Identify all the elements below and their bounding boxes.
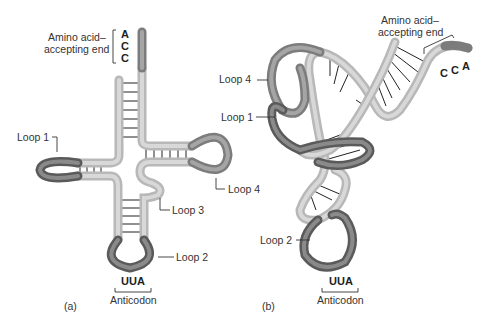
anticodon-stem-bonds: [122, 200, 140, 232]
acceptor-stem-bonds: [123, 83, 138, 137]
amino-acid-label-a-1: Amino acid–: [48, 31, 106, 43]
base-b-2: C: [451, 64, 459, 76]
amino-acid-label-a-2: accepting end: [44, 43, 110, 55]
trna-diagram: Amino acid– accepting end A C C Loop 1 L…: [0, 0, 483, 328]
panel-a-id: (a): [64, 300, 77, 312]
loop-3-label-a: Loop 3: [172, 204, 204, 216]
panel-b-id: (b): [262, 300, 275, 312]
anticodon-seq-a: UUA: [121, 275, 145, 287]
loop-1-label-a: Loop 1: [17, 131, 49, 143]
anticodon-label-a: Anticodon: [110, 294, 157, 306]
base-a-1: A: [121, 28, 129, 40]
loop-2-label-a: Loop 2: [176, 251, 208, 263]
panel-a-cloverleaf: [40, 32, 228, 268]
loop-1-label-b: Loop 1: [221, 111, 253, 123]
loop-4-label-b: Loop 4: [219, 73, 251, 85]
anticodon-label-b: Anticodon: [317, 294, 364, 306]
panel-b-3d: [271, 42, 468, 267]
amino-acid-label-b-1: Amino acid–: [381, 14, 439, 26]
amino-acid-label-b-2: accepting end: [378, 26, 444, 38]
base-b-3: A: [462, 60, 470, 72]
base-b-1: C: [440, 67, 448, 79]
loop-2-label-b: Loop 2: [260, 234, 292, 246]
anticodon-seq-b: UUA: [329, 275, 353, 287]
amino-bracket-a: [113, 30, 116, 63]
loop-4-label-a: Loop 4: [228, 183, 260, 195]
base-a-2: C: [121, 40, 129, 52]
base-a-3: C: [121, 52, 129, 64]
